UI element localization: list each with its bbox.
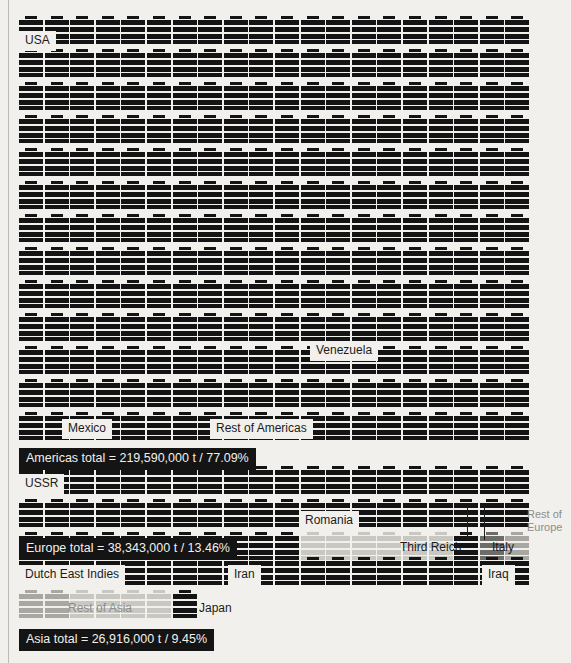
barrel-icon bbox=[326, 49, 350, 77]
barrel-icon bbox=[301, 532, 325, 560]
barrel-icon bbox=[173, 148, 197, 176]
barrel-icon bbox=[480, 346, 504, 374]
barrel-icon bbox=[429, 280, 453, 308]
barrel-icon bbox=[480, 379, 504, 407]
barrel-icon bbox=[377, 280, 401, 308]
barrel-icon bbox=[249, 148, 273, 176]
barrel-icon bbox=[121, 49, 145, 77]
barrel-icon bbox=[480, 280, 504, 308]
barrel-icon bbox=[19, 82, 43, 110]
barrel-icon bbox=[429, 49, 453, 77]
barrel-icon bbox=[403, 466, 427, 494]
barrel-icon bbox=[377, 49, 401, 77]
barrel-icon bbox=[147, 82, 171, 110]
label-third-reich: Third Reich bbox=[394, 538, 467, 558]
barrel-icon bbox=[505, 346, 529, 374]
label-mexico: Mexico bbox=[62, 419, 112, 439]
barrel-icon bbox=[505, 412, 529, 440]
barrel-icon bbox=[377, 214, 401, 242]
barrel-icon bbox=[454, 247, 478, 275]
barrel-icon bbox=[352, 412, 376, 440]
barrel-icon bbox=[403, 49, 427, 77]
barrel-icon bbox=[198, 499, 222, 527]
barrel-icon bbox=[198, 247, 222, 275]
barrel-icon bbox=[70, 49, 94, 77]
barrel-icon bbox=[377, 466, 401, 494]
barrel-icon bbox=[147, 557, 171, 585]
barrel-icon bbox=[454, 49, 478, 77]
barrel-icon bbox=[505, 466, 529, 494]
barrel-icon bbox=[224, 148, 248, 176]
barrel-icon bbox=[249, 214, 273, 242]
barrel-icon bbox=[198, 82, 222, 110]
barrel-icon bbox=[45, 181, 69, 209]
barrel-icon bbox=[70, 346, 94, 374]
barrel-icon bbox=[301, 115, 325, 143]
barrel-icon bbox=[249, 499, 273, 527]
barrel-icon bbox=[96, 466, 120, 494]
barrel-icon bbox=[403, 412, 427, 440]
barrel-icon bbox=[403, 16, 427, 44]
barrel-icon bbox=[377, 499, 401, 527]
barrel-icon bbox=[224, 466, 248, 494]
barrel-icon bbox=[326, 466, 350, 494]
barrel-icon bbox=[480, 214, 504, 242]
barrel-icon bbox=[147, 247, 171, 275]
barrel-icon bbox=[352, 557, 376, 585]
barrel-icon bbox=[505, 247, 529, 275]
barrel-icon bbox=[403, 247, 427, 275]
barrel-icon bbox=[454, 346, 478, 374]
barrel-icon bbox=[429, 346, 453, 374]
barrel-icon bbox=[96, 82, 120, 110]
barrel-icon bbox=[249, 115, 273, 143]
barrel-icon bbox=[454, 280, 478, 308]
barrel-icon bbox=[505, 82, 529, 110]
barrel-icon bbox=[301, 181, 325, 209]
barrel-icon bbox=[249, 466, 273, 494]
label-japan: Japan bbox=[193, 599, 238, 619]
barrel-icon bbox=[249, 82, 273, 110]
barrel-icon bbox=[70, 280, 94, 308]
barrel-icon bbox=[301, 557, 325, 585]
barrel-icon bbox=[121, 466, 145, 494]
barrel-icon bbox=[454, 466, 478, 494]
barrel-icon bbox=[70, 313, 94, 341]
barrel-icon bbox=[429, 466, 453, 494]
barrel-icon bbox=[352, 16, 376, 44]
barrel-icon bbox=[198, 214, 222, 242]
barrel-icon bbox=[301, 82, 325, 110]
barrel-icon bbox=[19, 214, 43, 242]
barrel-icon bbox=[480, 115, 504, 143]
barrel-icon bbox=[96, 148, 120, 176]
barrel-icon bbox=[505, 181, 529, 209]
barrel-icon bbox=[147, 181, 171, 209]
barrel-icon bbox=[480, 49, 504, 77]
barrel-icon bbox=[19, 590, 43, 618]
barrel-icon bbox=[326, 532, 350, 560]
barrel-icon bbox=[121, 16, 145, 44]
label-dutch-east-indies: Dutch East Indies bbox=[19, 565, 125, 585]
barrel-icon bbox=[224, 379, 248, 407]
barrel-icon bbox=[198, 49, 222, 77]
barrel-icon bbox=[429, 181, 453, 209]
barrel-icon bbox=[249, 280, 273, 308]
barrel-icon bbox=[301, 280, 325, 308]
barrel-icon bbox=[275, 532, 299, 560]
barrel-icon bbox=[121, 379, 145, 407]
barrel-icon bbox=[275, 181, 299, 209]
barrel-icon bbox=[275, 379, 299, 407]
barrel-icon bbox=[121, 148, 145, 176]
label-rest-of-europe-line2: Europe bbox=[521, 518, 568, 538]
barrel-icon bbox=[70, 16, 94, 44]
barrel-icon bbox=[275, 148, 299, 176]
barrel-icon bbox=[224, 313, 248, 341]
barrel-icon bbox=[429, 82, 453, 110]
barrel-icon bbox=[147, 499, 171, 527]
barrel-icon bbox=[19, 412, 43, 440]
barrel-icon bbox=[121, 313, 145, 341]
barrel-icon bbox=[96, 247, 120, 275]
barrel-icon bbox=[377, 412, 401, 440]
barrel-icon bbox=[326, 557, 350, 585]
barrel-icon bbox=[173, 16, 197, 44]
barrel-icon bbox=[480, 82, 504, 110]
